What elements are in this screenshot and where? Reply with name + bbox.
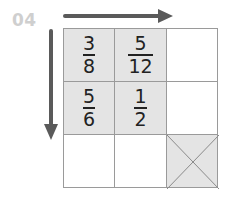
grid-cell-r1c2[interactable]: [166, 81, 218, 135]
fraction: 3 8: [83, 34, 95, 76]
grid-cell-r2c1[interactable]: [114, 134, 167, 188]
fraction: 1 2: [134, 87, 146, 129]
grid-cell-r1c0: 5 6: [63, 81, 115, 135]
problem-number: 04: [12, 10, 37, 30]
grid-cell-r2c0[interactable]: [63, 134, 115, 188]
numerator: 3: [83, 34, 95, 53]
grid-cell-r0c1: 5 12: [114, 28, 167, 82]
denominator: 6: [83, 110, 95, 129]
fraction-grid: 3 8 5 12 5 6 1 2: [63, 28, 218, 188]
numerator: 5: [134, 34, 146, 53]
cross-icon: [167, 135, 219, 189]
down-arrow-head-icon: [44, 124, 58, 140]
down-arrow-icon: [49, 29, 53, 129]
right-arrow-head-icon: [158, 9, 173, 23]
right-arrow-icon: [63, 14, 163, 18]
numerator: 5: [83, 87, 95, 106]
grid-cell-r1c1: 1 2: [114, 81, 167, 135]
denominator: 8: [83, 57, 95, 76]
grid-cell-r0c2[interactable]: [166, 28, 218, 82]
numerator: 1: [134, 87, 146, 106]
denominator: 2: [134, 110, 146, 129]
fraction: 5 12: [128, 34, 152, 76]
denominator: 12: [128, 57, 152, 76]
grid-cell-r2c2-crossed: [166, 134, 218, 188]
grid-cell-r0c0: 3 8: [63, 28, 115, 82]
fraction: 5 6: [83, 87, 95, 129]
